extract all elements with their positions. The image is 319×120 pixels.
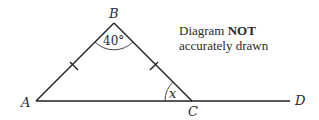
- label-c: C: [188, 104, 198, 119]
- angle-c-value: x: [169, 86, 177, 101]
- diagram-note: Diagram NOT accurately drawn: [179, 23, 268, 53]
- label-a: A: [20, 95, 30, 110]
- label-d: D: [294, 93, 306, 108]
- note-prefix: Diagram: [179, 23, 228, 38]
- triangle-diagram: A B C D 40° x: [0, 0, 319, 120]
- note-line2: accurately drawn: [179, 38, 268, 53]
- label-b: B: [108, 6, 119, 21]
- note-bold: NOT: [228, 23, 256, 38]
- angle-b-value: 40°: [103, 34, 124, 48]
